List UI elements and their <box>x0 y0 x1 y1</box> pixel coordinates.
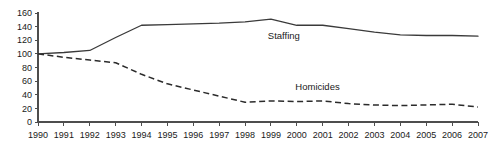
chart-canvas: 020406080100120140160 199019911992199319… <box>0 0 499 152</box>
x-tick-label: 2005 <box>416 130 436 140</box>
x-tick-label: 1991 <box>54 130 74 140</box>
y-tick-label: 40 <box>22 90 32 100</box>
y-tick-label: 0 <box>27 117 32 127</box>
x-tick-label: 1999 <box>261 130 281 140</box>
x-tick-label: 1998 <box>235 130 255 140</box>
y-tick-label: 20 <box>22 104 32 114</box>
series-label-homicides: Homicides <box>295 81 340 92</box>
x-tick-label: 1997 <box>209 130 229 140</box>
series-label-staffing: Staffing <box>268 30 300 41</box>
y-tick-label: 60 <box>22 76 32 86</box>
y-tick-label: 80 <box>22 63 32 73</box>
x-tick-label: 2006 <box>442 130 462 140</box>
x-tick-label: 1992 <box>80 130 100 140</box>
x-tick-label: 1996 <box>183 130 203 140</box>
x-tick-label: 2001 <box>313 130 333 140</box>
x-tick-label: 1990 <box>28 130 48 140</box>
x-tick-label: 2003 <box>364 130 384 140</box>
y-tick-label: 160 <box>17 8 32 18</box>
line-chart: 020406080100120140160 199019911992199319… <box>0 0 499 152</box>
y-tick-label: 120 <box>17 35 32 45</box>
x-tick-label: 2000 <box>287 130 307 140</box>
x-tick-label: 2004 <box>390 130 410 140</box>
x-tick-label: 2002 <box>339 130 359 140</box>
y-tick-label: 140 <box>17 22 32 32</box>
x-tick-label: 2007 <box>468 130 488 140</box>
x-tick-label: 1995 <box>157 130 177 140</box>
y-tick-label: 100 <box>17 49 32 59</box>
x-tick-label: 1994 <box>132 130 152 140</box>
x-tick-label: 1993 <box>106 130 126 140</box>
